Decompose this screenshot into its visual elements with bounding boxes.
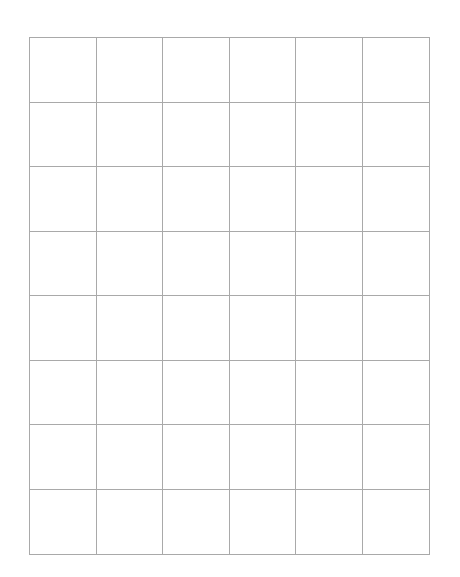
grid-cell (163, 167, 230, 232)
grid-cell (30, 296, 97, 361)
grid-cell (163, 296, 230, 361)
grid-cell (363, 167, 430, 232)
page-canvas (0, 0, 460, 577)
grid-cell (296, 490, 363, 555)
grid-cell (97, 425, 164, 490)
grid-cell (363, 38, 430, 103)
empty-grid (29, 37, 430, 555)
grid-cell (30, 103, 97, 168)
grid-cell (163, 490, 230, 555)
grid-cell (163, 425, 230, 490)
grid-cell (230, 38, 297, 103)
grid-cell (230, 425, 297, 490)
grid-cell (296, 361, 363, 426)
grid-cell (30, 38, 97, 103)
grid-cell (296, 103, 363, 168)
grid-cell (230, 103, 297, 168)
grid-cell (363, 425, 430, 490)
grid-cell (363, 361, 430, 426)
grid-cell (30, 490, 97, 555)
grid-cell (163, 361, 230, 426)
grid-cell (97, 167, 164, 232)
grid-cell (296, 425, 363, 490)
grid-cell (30, 361, 97, 426)
grid-cell (363, 296, 430, 361)
grid-cell (230, 361, 297, 426)
grid-cell (30, 167, 97, 232)
grid-cell (296, 167, 363, 232)
grid-cell (97, 490, 164, 555)
grid-cell (363, 103, 430, 168)
grid-cell (230, 232, 297, 297)
grid-cell (97, 103, 164, 168)
grid-cell (230, 490, 297, 555)
grid-cell (163, 232, 230, 297)
grid-cell (363, 232, 430, 297)
grid-cell (163, 38, 230, 103)
grid-cell (97, 232, 164, 297)
grid-cell (296, 38, 363, 103)
grid-cell (30, 232, 97, 297)
grid-cell (97, 38, 164, 103)
grid-cell (230, 296, 297, 361)
grid-cell (97, 361, 164, 426)
grid-cell (296, 232, 363, 297)
grid-cell (230, 167, 297, 232)
grid-cell (163, 103, 230, 168)
grid-cell (30, 425, 97, 490)
grid-cell (363, 490, 430, 555)
grid-cell (97, 296, 164, 361)
grid-cell (296, 296, 363, 361)
